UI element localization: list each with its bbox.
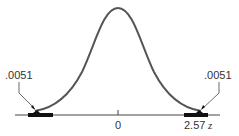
critical-tick-label: 2.57 bbox=[184, 120, 205, 131]
left-tail-bar bbox=[28, 113, 53, 117]
left-leader-line bbox=[19, 82, 35, 109]
right-leader-line bbox=[202, 82, 219, 109]
axis-variable-label: z bbox=[208, 120, 212, 131]
bell-curve bbox=[35, 8, 201, 111]
right-tail-bar bbox=[184, 113, 208, 117]
left-tail-label: .0051 bbox=[5, 70, 33, 81]
center-tick-label: 0 bbox=[115, 120, 121, 131]
right-tail-label: .0051 bbox=[204, 70, 232, 81]
normal-distribution-chart: .0051 .0051 0 2.57 z bbox=[0, 0, 239, 136]
chart-canvas bbox=[0, 0, 239, 136]
right-arrowhead-icon bbox=[201, 105, 205, 110]
